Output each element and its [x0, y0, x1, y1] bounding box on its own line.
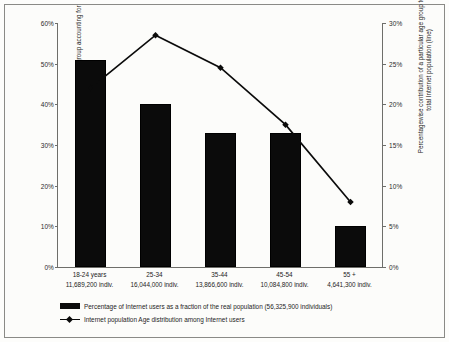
bar-swatch-icon: [60, 303, 80, 309]
chart-figure: Percentage of people of a particular age…: [0, 0, 449, 342]
x-label-count: 16,044,000 indiv.: [122, 280, 187, 290]
y-tick-left: 0%: [44, 264, 54, 271]
x-axis-label: 18-24 years11,689,200 indiv.: [57, 270, 122, 289]
y-tick-right: 25%: [389, 60, 402, 67]
x-label-category: 35-44: [187, 270, 252, 280]
line-chart-svg: [58, 23, 383, 267]
y-tick-right: 0%: [389, 264, 399, 271]
x-axis-label: 25-3416,044,000 indiv.: [122, 270, 187, 289]
x-axis-labels: 18-24 years11,689,200 indiv.25-3416,044,…: [57, 270, 382, 296]
y-tick-left: 30%: [41, 142, 54, 149]
line-marker-icon: [60, 316, 80, 323]
legend-item-line: Internet population Age distribution amo…: [60, 313, 410, 325]
x-label-count: 10,084,800 indiv.: [252, 280, 317, 290]
y-tick-right: 20%: [389, 101, 402, 108]
x-label-category: 45-54: [252, 270, 317, 280]
plot-area: Percentage of people of a particular age…: [57, 23, 383, 268]
line-series: [58, 23, 383, 267]
y-tick-left: 20%: [41, 182, 54, 189]
x-axis-label: 45-5410,084,800 indiv.: [252, 270, 317, 289]
x-label-category: 55 +: [317, 270, 382, 280]
x-label-count: 4,641,300 indiv.: [317, 280, 382, 290]
y-tick-right: 5%: [389, 223, 399, 230]
y-tick-right: 30%: [389, 20, 402, 27]
y-axis-right-title: Percentagewise contribution of a particu…: [417, 0, 433, 158]
legend-label-line: Internet population Age distribution amo…: [84, 316, 245, 323]
y-tick-left: 40%: [41, 101, 54, 108]
legend-item-bars: Percentage of Internet users as a fracti…: [60, 300, 410, 312]
x-label-category: 25-34: [122, 270, 187, 280]
x-label-category: 18-24 years: [57, 270, 122, 280]
y-axis-right-line: [382, 23, 383, 267]
y-tick-left: 10%: [41, 223, 54, 230]
chart-legend: Percentage of Internet users as a fracti…: [60, 300, 410, 326]
y-tick-right: 15%: [389, 142, 402, 149]
y-tick-left: 60%: [41, 20, 54, 27]
x-label-count: 11,689,200 indiv.: [57, 280, 122, 290]
x-axis-label: 55 +4,641,300 indiv.: [317, 270, 382, 289]
y-tick-left: 50%: [41, 60, 54, 67]
x-label-count: 13,866,600 indiv.: [187, 280, 252, 290]
x-axis-label: 35-4413,866,600 indiv.: [187, 270, 252, 289]
legend-label-bars: Percentage of Internet users as a fracti…: [84, 303, 332, 310]
y-tick-right: 10%: [389, 182, 402, 189]
